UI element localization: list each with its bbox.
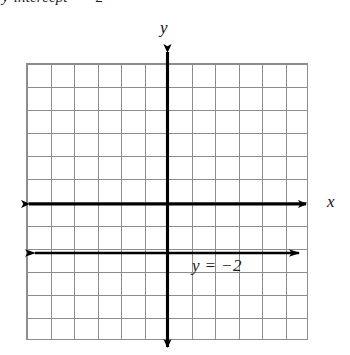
line-equation-label: y = −2 [192,256,242,276]
page-title: y-intercept = −2 [2,0,103,6]
coordinate-grid [26,63,308,340]
x-axis-label: x [327,192,335,212]
y-axis-label: y [160,18,168,38]
graph-screenshot: y-intercept = −2 y x y = −2 [0,0,350,355]
